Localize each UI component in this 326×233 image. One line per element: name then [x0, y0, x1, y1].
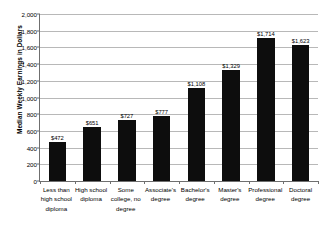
x-tick-mark — [283, 181, 284, 184]
x-axis-category-label: Bachelor's degree — [178, 185, 213, 213]
x-tick-mark — [179, 181, 180, 184]
y-axis-tick-label: 200 — [27, 161, 37, 168]
y-axis-tick-label: 1,400 — [22, 61, 37, 68]
y-axis-tick-label: 600 — [27, 127, 37, 134]
x-axis-category-label: Associate's degree — [143, 185, 178, 213]
x-tick-mark — [318, 181, 319, 184]
category-labels: Less than high school diplomaHigh school… — [39, 185, 318, 213]
y-axis-tick-label: 1,800 — [22, 27, 37, 34]
x-axis-category-label: Master's degree — [213, 185, 248, 213]
x-tick-mark — [214, 181, 215, 184]
plot-area: 2,0001,8001,6001,4001,2001,0008006004002… — [39, 14, 318, 182]
x-tick-mark — [144, 181, 145, 184]
x-tick-mark — [110, 181, 111, 184]
x-tick-mark — [249, 181, 250, 184]
y-axis-tick-label: 800 — [27, 111, 37, 118]
x-tick-mark — [75, 181, 76, 184]
x-axis-category-label: High school diploma — [74, 185, 109, 213]
x-ticks-layer — [40, 14, 318, 181]
x-axis-category-label: Less than high school diploma — [39, 185, 74, 213]
bar-chart: Median Weekly Earnings in Dollars 2,0001… — [0, 0, 326, 233]
y-axis-tick-label: 2,000 — [22, 11, 37, 18]
y-axis-tick-label: 0 — [34, 178, 37, 185]
y-axis-tick-label: 1,200 — [22, 77, 37, 84]
y-axis-tick-label: 1,600 — [22, 44, 37, 51]
x-axis-category-label: Doctoral degree — [283, 185, 318, 213]
x-axis-category-label: Some college, no degree — [108, 185, 143, 213]
x-axis-category-label: Professional degree — [247, 185, 283, 213]
y-axis-tick-label: 400 — [27, 144, 37, 151]
x-tick-mark — [40, 181, 41, 184]
y-axis-tick-label: 1,000 — [22, 94, 37, 101]
